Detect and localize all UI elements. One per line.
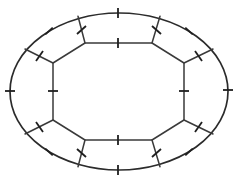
outer-tick-group <box>5 8 233 175</box>
inner-tick-group <box>48 38 189 145</box>
outer-ellipse <box>10 13 228 170</box>
tick-spoke-left-lower <box>36 122 43 132</box>
tick-outer-lower-left <box>45 149 52 156</box>
tick-outer-lower-right <box>185 149 192 156</box>
tick-outer-upper-right <box>185 28 192 35</box>
spoke-tick-group <box>36 26 202 157</box>
figure-root: Oval arena plan with segmented perimeter <box>0 0 238 184</box>
tick-spoke-right-upper <box>195 51 202 61</box>
tick-spoke-left-upper <box>36 51 43 61</box>
tick-spoke-right-lower <box>195 122 202 132</box>
tick-outer-upper-left <box>45 28 52 35</box>
inner-octagon <box>53 43 184 140</box>
oval-arena-diagram <box>0 0 238 184</box>
